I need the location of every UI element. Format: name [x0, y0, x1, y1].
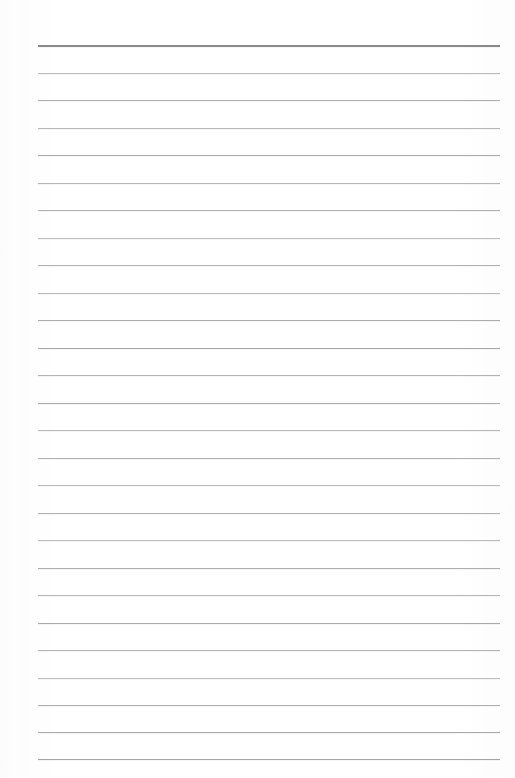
rule-line-scan-shadow [38, 706, 500, 707]
rule-line-scan-shadow [38, 47, 500, 48]
rule-line-scan-shadow [38, 184, 500, 185]
rule-line-scan-shadow [38, 211, 500, 212]
rule-line-scan-shadow [38, 624, 500, 625]
rule-line-scan-shadow [38, 541, 500, 542]
rule-line-scan-shadow [38, 569, 500, 570]
rule-line-scan-shadow [38, 733, 500, 734]
rule-line-scan-shadow [38, 651, 500, 652]
rule-line-scan-shadow [38, 760, 500, 761]
scanned-page [0, 0, 515, 778]
rule-line-scan-shadow [38, 514, 500, 515]
rule-line-scan-shadow [38, 74, 500, 75]
rule-line-scan-shadow [38, 101, 500, 102]
rule-line-scan-shadow [38, 431, 500, 432]
rule-line-scan-shadow [38, 376, 500, 377]
rule-line-scan-shadow [38, 129, 500, 130]
rule-line-scan-shadow [38, 679, 500, 680]
rule-line-scan-shadow [38, 156, 500, 157]
rule-line-scan-shadow [38, 349, 500, 350]
rule-line-scan-shadow [38, 404, 500, 405]
rule-line-scan-shadow [38, 266, 500, 267]
paper-texture-overlay [0, 0, 515, 778]
rule-line-scan-shadow [38, 239, 500, 240]
rule-line-scan-shadow [38, 294, 500, 295]
rule-line-scan-shadow [38, 321, 500, 322]
rule-line-scan-shadow [38, 459, 500, 460]
rule-line-scan-shadow [38, 596, 500, 597]
rule-line-scan-shadow [38, 486, 500, 487]
